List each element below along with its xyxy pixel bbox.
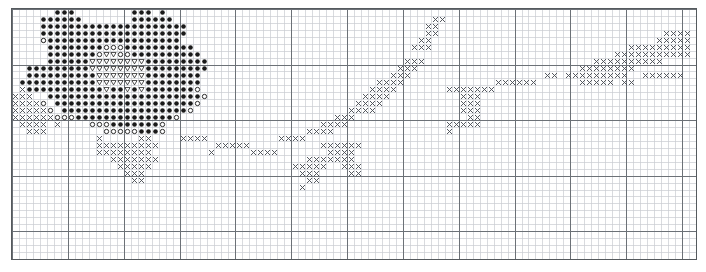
filled-dot-icon[interactable] bbox=[110, 93, 117, 100]
cross-x-icon[interactable] bbox=[607, 58, 614, 65]
filled-dot-icon[interactable] bbox=[96, 23, 103, 30]
cross-x-icon[interactable] bbox=[593, 58, 600, 65]
filled-dot-icon[interactable] bbox=[68, 58, 75, 65]
cross-x-icon[interactable] bbox=[502, 79, 509, 86]
cross-x-icon[interactable] bbox=[411, 44, 418, 51]
cross-x-icon[interactable] bbox=[138, 135, 145, 142]
cross-x-icon[interactable] bbox=[12, 100, 19, 107]
filled-dot-icon[interactable] bbox=[110, 86, 117, 93]
cross-x-icon[interactable] bbox=[33, 121, 40, 128]
filled-dot-icon[interactable] bbox=[68, 51, 75, 58]
cross-x-icon[interactable] bbox=[411, 65, 418, 72]
filled-dot-icon[interactable] bbox=[117, 93, 124, 100]
cross-x-icon[interactable] bbox=[600, 58, 607, 65]
triangle-down-icon[interactable] bbox=[110, 72, 117, 79]
open-circle-icon[interactable] bbox=[68, 114, 75, 121]
triangle-down-icon[interactable] bbox=[131, 65, 138, 72]
filled-dot-icon[interactable] bbox=[152, 65, 159, 72]
filled-dot-icon[interactable] bbox=[131, 23, 138, 30]
filled-dot-icon[interactable] bbox=[82, 72, 89, 79]
filled-dot-icon[interactable] bbox=[159, 9, 166, 16]
filled-dot-icon[interactable] bbox=[152, 58, 159, 65]
open-circle-icon[interactable] bbox=[117, 51, 124, 58]
cross-x-icon[interactable] bbox=[474, 107, 481, 114]
open-circle-icon[interactable] bbox=[124, 128, 131, 135]
filled-dot-icon[interactable] bbox=[68, 30, 75, 37]
cross-x-icon[interactable] bbox=[586, 72, 593, 79]
triangle-down-icon[interactable] bbox=[117, 58, 124, 65]
cross-x-icon[interactable] bbox=[334, 142, 341, 149]
filled-dot-icon[interactable] bbox=[145, 86, 152, 93]
open-circle-icon[interactable] bbox=[173, 114, 180, 121]
cross-x-icon[interactable] bbox=[607, 79, 614, 86]
cross-x-icon[interactable] bbox=[341, 121, 348, 128]
cross-x-icon[interactable] bbox=[397, 72, 404, 79]
filled-dot-icon[interactable] bbox=[110, 100, 117, 107]
triangle-down-icon[interactable] bbox=[103, 58, 110, 65]
triangle-down-icon[interactable] bbox=[110, 79, 117, 86]
triangle-down-icon[interactable] bbox=[131, 72, 138, 79]
filled-dot-icon[interactable] bbox=[138, 93, 145, 100]
filled-dot-icon[interactable] bbox=[117, 37, 124, 44]
cross-x-icon[interactable] bbox=[138, 163, 145, 170]
filled-dot-icon[interactable] bbox=[131, 107, 138, 114]
filled-dot-icon[interactable] bbox=[75, 79, 82, 86]
cross-x-icon[interactable] bbox=[103, 142, 110, 149]
cross-x-icon[interactable] bbox=[460, 100, 467, 107]
filled-dot-icon[interactable] bbox=[166, 72, 173, 79]
filled-dot-icon[interactable] bbox=[40, 65, 47, 72]
filled-dot-icon[interactable] bbox=[54, 86, 61, 93]
cross-x-icon[interactable] bbox=[131, 149, 138, 156]
filled-dot-icon[interactable] bbox=[145, 44, 152, 51]
cross-x-icon[interactable] bbox=[642, 44, 649, 51]
filled-dot-icon[interactable] bbox=[110, 121, 117, 128]
cross-x-icon[interactable] bbox=[327, 128, 334, 135]
filled-dot-icon[interactable] bbox=[152, 114, 159, 121]
filled-dot-icon[interactable] bbox=[75, 114, 82, 121]
cross-x-icon[interactable] bbox=[180, 135, 187, 142]
filled-dot-icon[interactable] bbox=[40, 23, 47, 30]
cross-x-icon[interactable] bbox=[194, 135, 201, 142]
cross-x-icon[interactable] bbox=[369, 107, 376, 114]
filled-dot-icon[interactable] bbox=[159, 93, 166, 100]
cross-x-icon[interactable] bbox=[635, 58, 642, 65]
filled-dot-icon[interactable] bbox=[54, 16, 61, 23]
filled-dot-icon[interactable] bbox=[117, 107, 124, 114]
filled-dot-icon[interactable] bbox=[131, 86, 138, 93]
filled-dot-icon[interactable] bbox=[145, 23, 152, 30]
filled-dot-icon[interactable] bbox=[61, 72, 68, 79]
cross-x-icon[interactable] bbox=[446, 86, 453, 93]
cross-x-icon[interactable] bbox=[656, 72, 663, 79]
filled-dot-icon[interactable] bbox=[180, 51, 187, 58]
filled-dot-icon[interactable] bbox=[194, 51, 201, 58]
open-circle-icon[interactable] bbox=[96, 51, 103, 58]
filled-dot-icon[interactable] bbox=[89, 23, 96, 30]
cross-x-icon[interactable] bbox=[663, 72, 670, 79]
cross-x-icon[interactable] bbox=[138, 170, 145, 177]
filled-dot-icon[interactable] bbox=[82, 51, 89, 58]
cross-x-icon[interactable] bbox=[348, 163, 355, 170]
cross-x-icon[interactable] bbox=[670, 44, 677, 51]
cross-x-icon[interactable] bbox=[432, 16, 439, 23]
cross-x-icon[interactable] bbox=[600, 72, 607, 79]
cross-x-icon[interactable] bbox=[621, 79, 628, 86]
cross-x-icon[interactable] bbox=[656, 37, 663, 44]
triangle-down-icon[interactable] bbox=[89, 58, 96, 65]
filled-dot-icon[interactable] bbox=[75, 37, 82, 44]
filled-dot-icon[interactable] bbox=[145, 16, 152, 23]
filled-dot-icon[interactable] bbox=[110, 107, 117, 114]
filled-dot-icon[interactable] bbox=[26, 86, 33, 93]
cross-x-icon[interactable] bbox=[12, 93, 19, 100]
filled-dot-icon[interactable] bbox=[187, 51, 194, 58]
stitch-symbol-layer[interactable] bbox=[12, 9, 696, 259]
filled-dot-icon[interactable] bbox=[75, 58, 82, 65]
cross-x-icon[interactable] bbox=[355, 100, 362, 107]
filled-dot-icon[interactable] bbox=[75, 93, 82, 100]
cross-x-icon[interactable] bbox=[264, 149, 271, 156]
filled-dot-icon[interactable] bbox=[82, 79, 89, 86]
filled-dot-icon[interactable] bbox=[68, 100, 75, 107]
cross-x-icon[interactable] bbox=[341, 163, 348, 170]
filled-dot-icon[interactable] bbox=[124, 100, 131, 107]
open-circle-icon[interactable] bbox=[54, 114, 61, 121]
filled-dot-icon[interactable] bbox=[131, 9, 138, 16]
